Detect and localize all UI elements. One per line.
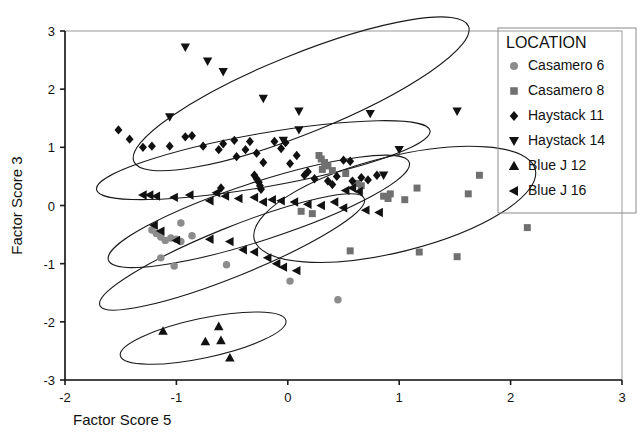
- data-point: [286, 277, 293, 284]
- data-point: [166, 141, 174, 150]
- data-point: [246, 137, 254, 146]
- y-tick-label: 1: [48, 140, 55, 155]
- legend-item-label: Haystack 14: [528, 132, 605, 148]
- data-point: [524, 224, 531, 231]
- data-point: [185, 190, 194, 199]
- data-point: [259, 95, 268, 103]
- legend-marker-icon: [510, 111, 519, 121]
- data-point: [234, 194, 243, 203]
- data-point: [476, 172, 483, 179]
- data-point: [259, 158, 267, 167]
- data-point: [216, 336, 226, 345]
- y-tick-label: -1: [43, 257, 55, 272]
- data-point: [233, 152, 241, 161]
- x-tick-label: 1: [396, 390, 403, 405]
- y-axis-title: Factor Score 3: [8, 156, 25, 254]
- scatter-plot-figure: -2-101233210-1-2-3Factor Score 5Factor S…: [0, 0, 642, 445]
- data-point: [223, 261, 230, 268]
- data-point: [414, 185, 421, 192]
- data-point: [139, 143, 147, 152]
- data-point: [416, 249, 423, 256]
- legend: LOCATIONCasamero 6Casamero 8Haystack 11H…: [498, 28, 636, 213]
- data-point: [214, 322, 224, 331]
- data-point: [294, 108, 303, 116]
- bluej12-ellipse: [116, 301, 290, 375]
- data-point: [258, 197, 267, 206]
- legend-title: LOCATION: [506, 34, 587, 51]
- data-point: [374, 208, 383, 217]
- data-point: [181, 44, 190, 52]
- data-point: [454, 253, 461, 260]
- legend-item-haystack-14[interactable]: Haystack 14: [509, 132, 605, 148]
- data-point: [242, 145, 250, 154]
- data-point: [294, 126, 303, 134]
- legend-item-label: Casamero 8: [528, 82, 604, 98]
- data-point: [230, 136, 238, 145]
- data-point: [199, 141, 207, 150]
- series-blue-j-12: [158, 322, 234, 362]
- y-tick-label: 0: [48, 199, 55, 214]
- data-point: [366, 110, 375, 118]
- data-point: [188, 232, 195, 239]
- legend-item-blue-j-16[interactable]: Blue J 16: [509, 182, 587, 198]
- data-point: [339, 203, 348, 212]
- data-point: [293, 151, 301, 160]
- data-point: [225, 237, 234, 246]
- data-point: [292, 266, 301, 275]
- data-point: [387, 190, 394, 197]
- data-point: [452, 108, 461, 116]
- data-point: [170, 262, 177, 269]
- x-axis-title: Factor Score 5: [73, 411, 171, 428]
- series-haystack-14: [165, 44, 462, 180]
- x-tick-label: -1: [171, 390, 183, 405]
- data-point: [157, 254, 164, 261]
- x-tick-label: 3: [618, 390, 625, 405]
- casamero8-ellipse: [243, 123, 547, 286]
- y-tick-label: -3: [43, 373, 55, 388]
- plot-canvas: -2-101233210-1-2-3Factor Score 5Factor S…: [0, 0, 642, 445]
- data-point: [316, 201, 325, 210]
- legend-marker-icon: [510, 62, 518, 70]
- data-point: [181, 132, 189, 141]
- data-point: [188, 131, 196, 140]
- legend-marker-icon: [509, 137, 519, 146]
- data-point: [225, 353, 235, 362]
- legend-item-casamero-8[interactable]: Casamero 8: [510, 82, 604, 98]
- data-point: [340, 155, 348, 164]
- legend-item-haystack-11[interactable]: Haystack 11: [510, 107, 604, 123]
- series-casamero-6: [148, 219, 341, 303]
- data-points: [115, 44, 531, 362]
- data-point: [347, 247, 354, 254]
- data-point: [465, 190, 472, 197]
- legend-item-blue-j-12[interactable]: Blue J 12: [509, 157, 587, 173]
- legend-item-casamero-6[interactable]: Casamero 6: [510, 57, 604, 73]
- data-point: [395, 146, 404, 154]
- x-tick-label: 2: [507, 390, 514, 405]
- legend-marker-icon: [509, 161, 519, 170]
- data-point: [276, 196, 285, 205]
- data-point: [342, 170, 349, 177]
- data-point: [253, 148, 261, 157]
- data-point: [219, 68, 228, 76]
- data-point: [249, 193, 258, 202]
- data-point: [330, 197, 339, 206]
- data-point: [329, 167, 336, 174]
- data-point: [203, 58, 212, 66]
- data-point: [177, 219, 184, 226]
- data-point: [311, 174, 319, 183]
- data-point: [334, 296, 341, 303]
- data-point: [263, 253, 272, 262]
- data-point: [148, 141, 156, 150]
- data-point: [309, 210, 316, 217]
- legend-marker-icon: [509, 186, 518, 196]
- data-point: [319, 166, 326, 173]
- data-point: [126, 135, 134, 144]
- legend-marker-icon: [510, 87, 518, 95]
- casamero6-ellipse: [91, 176, 374, 328]
- data-point: [401, 196, 408, 203]
- legend-item-label: Casamero 6: [528, 57, 604, 73]
- series-casamero-8: [298, 152, 531, 260]
- data-point: [286, 159, 294, 168]
- legend-item-label: Haystack 11: [528, 107, 604, 123]
- y-tick-label: -2: [43, 315, 55, 330]
